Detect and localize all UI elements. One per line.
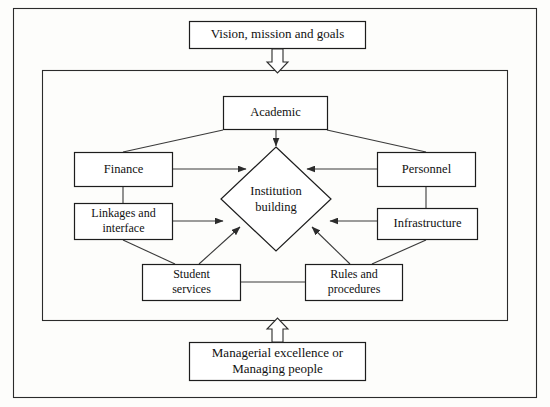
link-infrastructure-rules bbox=[372, 240, 426, 264]
node-student-services-label-line1: Student bbox=[173, 267, 210, 281]
node-personnel-label: Personnel bbox=[402, 162, 452, 176]
managerial-excellence-label-line1: Managerial excellence or bbox=[212, 345, 344, 360]
node-rules-label-line2: procedures bbox=[328, 282, 381, 296]
diagram-page: Vision, mission and goals Managerial exc… bbox=[0, 0, 550, 407]
node-student-services-label-line2: services bbox=[172, 282, 211, 296]
link-linkages-student bbox=[123, 240, 175, 264]
institution-building-label-line1: Institution bbox=[250, 184, 302, 198]
node-rules-label-line1: Rules and bbox=[330, 267, 378, 281]
institution-building-label-line2: building bbox=[255, 200, 297, 214]
arrow-student-to-center bbox=[199, 227, 240, 264]
link-academic-finance bbox=[123, 130, 223, 152]
node-academic-label: Academic bbox=[250, 105, 301, 119]
node-linkages-label-line2: interface bbox=[103, 221, 145, 235]
managerial-excellence-label-line2: Managing people bbox=[232, 361, 323, 376]
node-finance-label: Finance bbox=[104, 162, 144, 176]
node-infrastructure-label: Infrastructure bbox=[393, 216, 461, 230]
link-academic-personnel bbox=[327, 130, 426, 152]
institution-building-diagram: Vision, mission and goals Managerial exc… bbox=[0, 0, 550, 407]
node-linkages-label-line1: Linkages and bbox=[91, 206, 155, 220]
down-block-arrow bbox=[267, 49, 288, 73]
vision-mission-goals-label: Vision, mission and goals bbox=[211, 26, 345, 41]
up-block-arrow bbox=[267, 318, 288, 342]
arrow-rules-to-center bbox=[312, 227, 350, 264]
